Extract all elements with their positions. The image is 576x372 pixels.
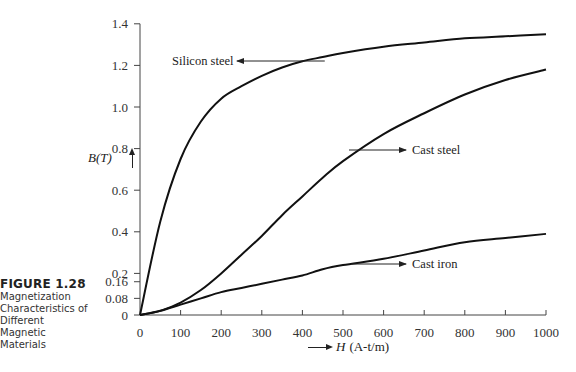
x-tick-label: 800 bbox=[455, 325, 475, 340]
y-tick-label: 0 bbox=[122, 308, 129, 323]
curve-labels: Silicon steelCast steelCast iron bbox=[172, 54, 461, 271]
x-axis-title: H (A-t/m) bbox=[308, 339, 389, 355]
x-tick-label: 200 bbox=[211, 325, 231, 340]
y-tick-label: 1.4 bbox=[112, 16, 129, 31]
caption-line: Characteristics of bbox=[0, 303, 90, 315]
y-tick-label: 0.16 bbox=[105, 274, 128, 289]
y-tick-label: 0.08 bbox=[105, 291, 128, 306]
caption-line: Magnetization bbox=[0, 291, 90, 303]
x-axis-arrow-icon bbox=[308, 347, 330, 348]
y-axis-label: B(T) bbox=[88, 150, 112, 166]
curve-silicon-steel bbox=[140, 34, 546, 315]
x-tick-label: 700 bbox=[414, 325, 434, 340]
caption-line: Materials bbox=[0, 339, 90, 351]
curve-cast-steel bbox=[140, 70, 546, 315]
x-axis-units: (A-t/m) bbox=[349, 339, 389, 355]
x-tick-label: 600 bbox=[374, 325, 394, 340]
y-tick-label: 1.0 bbox=[112, 100, 128, 115]
curve-cast-iron bbox=[140, 234, 546, 315]
x-tick-label: 400 bbox=[293, 325, 313, 340]
figure-caption: FIGURE 1.28 Magnetization Characteristic… bbox=[0, 277, 90, 351]
y-tick-label: 0.6 bbox=[112, 183, 129, 198]
y-axis-arrowhead-icon bbox=[129, 148, 135, 155]
curves bbox=[140, 34, 546, 315]
x-tick-label: 300 bbox=[252, 325, 272, 340]
x-tick-label: 500 bbox=[333, 325, 353, 340]
y-tick-label: 1.2 bbox=[112, 58, 128, 73]
curve-label: Cast iron bbox=[412, 257, 458, 271]
y-tick-label: 0.4 bbox=[112, 224, 129, 239]
x-tick-label: 0 bbox=[137, 325, 144, 340]
curve-label: Silicon steel bbox=[172, 54, 234, 68]
caption-line: Different bbox=[0, 315, 90, 327]
y-tick-label: 0.8 bbox=[112, 141, 128, 156]
caption-line: Magnetic bbox=[0, 327, 90, 339]
x-tick-label: 1000 bbox=[533, 325, 559, 340]
curve-label: Cast steel bbox=[412, 143, 461, 157]
figure-number: FIGURE 1.28 bbox=[0, 277, 90, 291]
x-axis-symbol: H bbox=[336, 339, 345, 355]
x-tick-label: 100 bbox=[171, 325, 191, 340]
x-tick-label: 900 bbox=[496, 325, 516, 340]
